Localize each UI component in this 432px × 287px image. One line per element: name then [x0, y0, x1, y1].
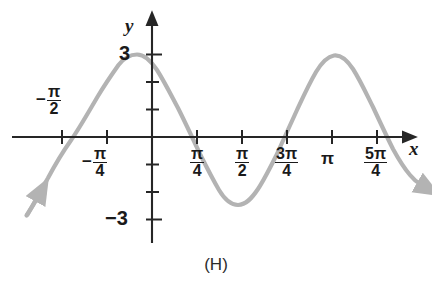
- coordinate-plane: [0, 0, 432, 287]
- y-tick-label-3: 3: [119, 43, 130, 63]
- fraction-denominator: 4: [190, 162, 204, 179]
- y-axis-label: y: [125, 16, 133, 35]
- x-tick-label-pi-over-2: π 2: [235, 146, 249, 180]
- figure-caption: (H): [0, 255, 432, 275]
- fraction-denominator: 2: [47, 100, 61, 117]
- minus-sign: −: [82, 153, 92, 170]
- graph-figure: y x 3 −3 − π 2 − π 4 π 4 π 2: [0, 0, 432, 287]
- fraction-denominator: 2: [235, 162, 249, 179]
- x-tick-label-three-pi-over-4: 3π 4: [275, 146, 298, 180]
- fraction-numerator: π: [93, 146, 107, 162]
- x-tick-label-pi: π: [321, 150, 334, 167]
- fraction-numerator: 3π: [275, 146, 298, 162]
- fraction-denominator: 4: [93, 162, 107, 179]
- x-tick-label-neg-pi-over-4: − π 4: [82, 146, 107, 180]
- fraction-numerator: 5π: [364, 146, 387, 162]
- fraction-numerator: π: [190, 146, 204, 162]
- x-axis-label: x: [409, 139, 419, 158]
- fraction-numerator: π: [235, 146, 249, 162]
- y-tick-label-neg-3: −3: [105, 208, 128, 228]
- fraction-numerator: π: [47, 84, 61, 100]
- fraction-denominator: 4: [275, 162, 298, 179]
- fraction-denominator: 4: [364, 162, 387, 179]
- x-tick-label-pi-over-4: π 4: [190, 146, 204, 180]
- x-tick-label-five-pi-over-4: 5π 4: [364, 146, 387, 180]
- sine-curve: [27, 55, 422, 216]
- minus-sign: −: [36, 91, 46, 108]
- x-tick-label-neg-pi-over-2: − π 2: [36, 84, 61, 118]
